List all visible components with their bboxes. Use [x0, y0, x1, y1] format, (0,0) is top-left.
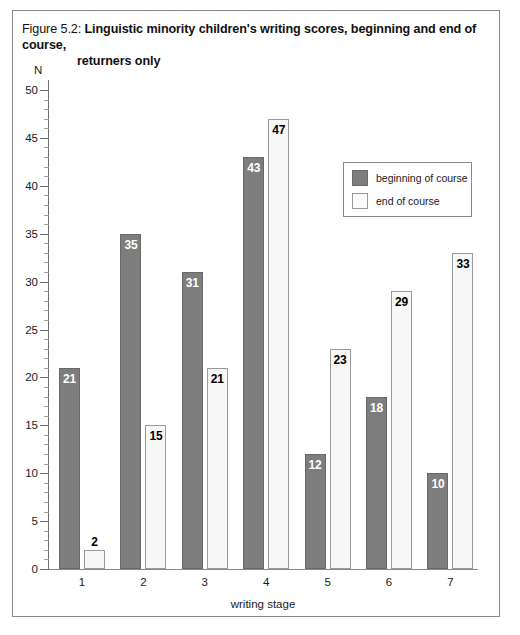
figure-title-line-2: returners only — [77, 53, 492, 69]
figure-title-line-1: Linguistic minority children's writing s… — [22, 22, 476, 52]
x-axis-tick-label-5: 5 — [305, 576, 351, 588]
y-axis-tick-major — [40, 282, 49, 283]
y-axis-tick-major — [40, 425, 49, 426]
y-axis-tick-minor — [44, 531, 49, 532]
y-axis-tick-minor — [44, 550, 49, 551]
y-axis-tick-minor — [44, 512, 49, 513]
y-axis-tick-label: 10 — [14, 467, 38, 479]
bar-beginning-stage-2[interactable]: 35 — [120, 234, 141, 569]
y-axis-tick-minor — [44, 167, 49, 168]
x-axis-tick-label-6: 6 — [366, 576, 412, 588]
y-axis-tick-minor — [44, 157, 49, 158]
bar-value-label: 18 — [367, 401, 386, 415]
y-axis-tick-minor — [44, 483, 49, 484]
bar-value-label: 10 — [428, 477, 447, 491]
y-axis-tick-minor — [44, 205, 49, 206]
legend-item-beginning-of-course[interactable]: beginning of course — [352, 169, 468, 187]
bar-value-label: 15 — [146, 429, 165, 443]
figure-frame: Figure 5.2: Linguistic minority children… — [12, 10, 500, 617]
bar-group: 4347 — [243, 90, 289, 569]
y-axis-tick-minor — [44, 492, 49, 493]
y-axis-tick-label: 5 — [14, 515, 38, 527]
y-axis-tick-minor — [44, 301, 49, 302]
y-axis-tick-minor — [44, 243, 49, 244]
legend-item-end-of-course[interactable]: end of course — [352, 192, 440, 210]
y-axis-tick-major — [40, 473, 49, 474]
y-axis-tick-major — [40, 521, 49, 522]
y-axis-tick-minor — [44, 406, 49, 407]
bar-end-stage-1[interactable]: 2 — [84, 550, 105, 569]
y-axis-tick-minor — [44, 119, 49, 120]
legend-label-end-of-course: end of course — [376, 195, 440, 207]
bar-beginning-stage-7[interactable]: 10 — [427, 473, 448, 569]
x-axis-tick-label-1: 1 — [59, 576, 105, 588]
y-axis-tick-major — [40, 186, 49, 187]
y-axis-tick-minor — [44, 454, 49, 455]
y-axis-tick-minor — [44, 502, 49, 503]
legend-swatch-beginning-of-course — [352, 170, 368, 186]
bar-group: 212 — [59, 90, 105, 569]
bar-end-stage-7[interactable]: 33 — [452, 253, 473, 569]
y-axis-tick-minor — [44, 253, 49, 254]
y-axis-tick-minor — [44, 349, 49, 350]
figure-number: Figure 5.2: — [22, 22, 81, 36]
bar-beginning-stage-6[interactable]: 18 — [366, 397, 387, 569]
y-axis-tick-minor — [44, 176, 49, 177]
bar-end-stage-2[interactable]: 15 — [145, 425, 166, 569]
bar-beginning-stage-3[interactable]: 31 — [182, 272, 203, 569]
y-axis-tick-label: 50 — [14, 84, 38, 96]
y-axis-tick-major — [40, 569, 49, 570]
figure-title: Figure 5.2: Linguistic minority children… — [22, 21, 492, 69]
bar-end-stage-3[interactable]: 21 — [207, 368, 228, 569]
y-axis-tick-minor — [44, 397, 49, 398]
bar-end-stage-4[interactable]: 47 — [268, 119, 289, 569]
bar-value-label: 47 — [269, 123, 288, 137]
y-axis-tick-minor — [44, 109, 49, 110]
y-axis-tick-minor — [44, 128, 49, 129]
y-axis-tick-label: 35 — [14, 228, 38, 240]
bar-beginning-stage-1[interactable]: 21 — [59, 368, 80, 569]
x-axis-label: writing stage — [48, 598, 478, 610]
bar-value-label: 12 — [306, 458, 325, 472]
y-axis-tick-major — [40, 234, 49, 235]
y-axis-tick-label: 15 — [14, 419, 38, 431]
y-axis-tick-minor — [44, 224, 49, 225]
bar-group: 3121 — [182, 90, 228, 569]
bar-group: 3515 — [120, 90, 166, 569]
y-axis-tick-minor — [44, 291, 49, 292]
y-axis-tick-minor — [44, 435, 49, 436]
y-axis-tick-label: 25 — [14, 324, 38, 336]
y-axis-tick-label: 30 — [14, 276, 38, 288]
chart-legend: beginning of course end of course — [343, 162, 472, 217]
y-axis-tick-minor — [44, 358, 49, 359]
x-axis-tick-label-2: 2 — [120, 576, 166, 588]
x-axis-tick-label-3: 3 — [182, 576, 228, 588]
y-axis-tick-minor — [44, 147, 49, 148]
bar-end-stage-5[interactable]: 23 — [330, 349, 351, 569]
y-axis-tick-minor — [44, 540, 49, 541]
y-axis-tick-minor — [44, 444, 49, 445]
bar-beginning-stage-5[interactable]: 12 — [305, 454, 326, 569]
y-axis-tick-minor — [44, 559, 49, 560]
y-axis-tick-minor — [44, 416, 49, 417]
x-axis-tick-label-4: 4 — [243, 576, 289, 588]
y-axis-label: N — [34, 64, 42, 76]
bar-value-label: 31 — [183, 276, 202, 290]
bar-value-label: 21 — [60, 372, 79, 386]
y-axis-tick-minor — [44, 320, 49, 321]
y-axis-tick-minor — [44, 215, 49, 216]
x-axis-tick-label-7: 7 — [427, 576, 473, 588]
y-axis-tick-minor — [44, 464, 49, 465]
y-axis-tick-label: 20 — [14, 371, 38, 383]
bar-beginning-stage-4[interactable]: 43 — [243, 157, 264, 569]
y-axis-tick-minor — [44, 387, 49, 388]
y-axis-tick-major — [40, 330, 49, 331]
bar-value-label: 33 — [453, 257, 472, 271]
legend-swatch-end-of-course — [352, 193, 368, 209]
y-axis-tick-minor — [44, 368, 49, 369]
bar-end-stage-6[interactable]: 29 — [391, 291, 412, 569]
bar-value-label: 29 — [392, 295, 411, 309]
bar-value-label: 23 — [331, 353, 350, 367]
y-axis-tick-minor — [44, 262, 49, 263]
y-axis-tick-label: 40 — [14, 180, 38, 192]
